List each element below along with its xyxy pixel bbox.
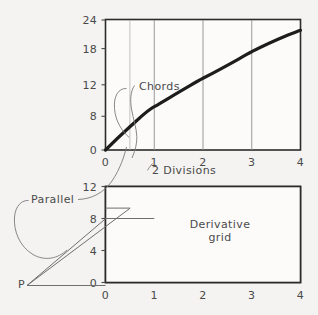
bottom-ytick-label-4: 4 [90,245,97,258]
divisions-label: 2 Divisions [152,164,216,177]
top-xtick-label-3: 3 [248,156,255,169]
top-ytick-label-18: 18 [82,43,97,56]
top-ytick-label-8: 8 [90,110,97,123]
bottom-ytick-label-8: 8 [90,213,97,226]
top-chart: 24 18 12 8 0 0 1 2 3 4 Chords 2 Division… [82,14,304,177]
chords-label: Chords [139,80,180,93]
top-xtick-label-4: 4 [297,156,304,169]
derivative-grid-label-line2: grid [208,231,231,244]
bottom-xtick-label-2: 2 [199,289,206,302]
top-ytick-label-12: 12 [82,79,97,92]
parallel-leader-left [14,200,67,258]
pole-label: P [18,278,25,291]
top-ytick-label-24: 24 [82,14,97,27]
bottom-xtick-label-3: 3 [248,289,255,302]
top-ytick-label-0: 0 [90,144,97,157]
bottom-xtick-label-4: 4 [297,289,304,302]
derivative-integral-figure: 24 18 12 8 0 0 1 2 3 4 Chords 2 Division… [0,0,318,315]
bottom-plot-frame-overlay [106,187,301,283]
derivative-grid-label-line1: Derivative [190,218,251,231]
bottom-xtick-label-0: 0 [102,289,109,302]
bottom-xtick-label-1: 1 [151,289,158,302]
top-xtick-label-0: 0 [102,156,109,169]
bottom-ytick-label-12: 12 [82,181,97,194]
bottom-ytick-label-0: 0 [90,277,97,290]
parallel-label: Parallel [31,193,74,206]
figure-container: 24 18 12 8 0 0 1 2 3 4 Chords 2 Division… [0,0,318,315]
